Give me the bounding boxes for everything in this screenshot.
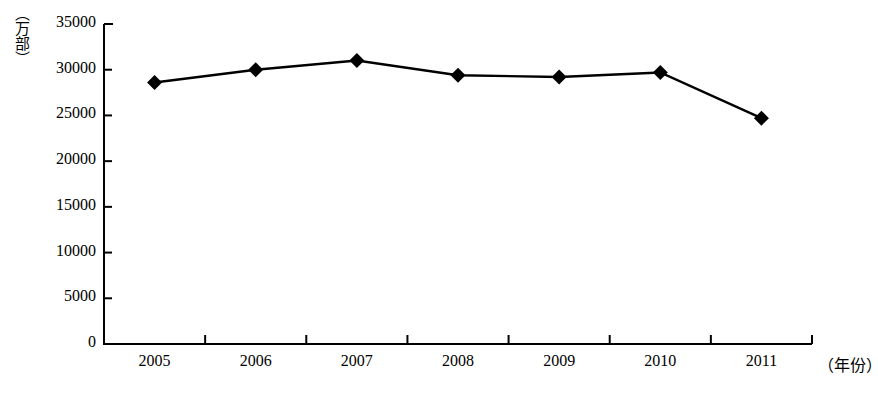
line-chart: （万部） （年份） 050001000015000200002500030000… bbox=[0, 0, 878, 402]
data-point-marker bbox=[248, 62, 263, 77]
data-point-marker bbox=[653, 65, 668, 80]
data-point-marker bbox=[754, 111, 769, 126]
plot-area bbox=[0, 0, 878, 402]
data-point-markers bbox=[147, 53, 769, 126]
data-point-marker bbox=[147, 75, 162, 90]
y-axis-ticks bbox=[104, 24, 112, 298]
data-point-marker bbox=[451, 68, 466, 83]
data-point-marker bbox=[552, 70, 567, 85]
data-point-marker bbox=[349, 53, 364, 68]
x-axis-ticks bbox=[205, 335, 711, 344]
